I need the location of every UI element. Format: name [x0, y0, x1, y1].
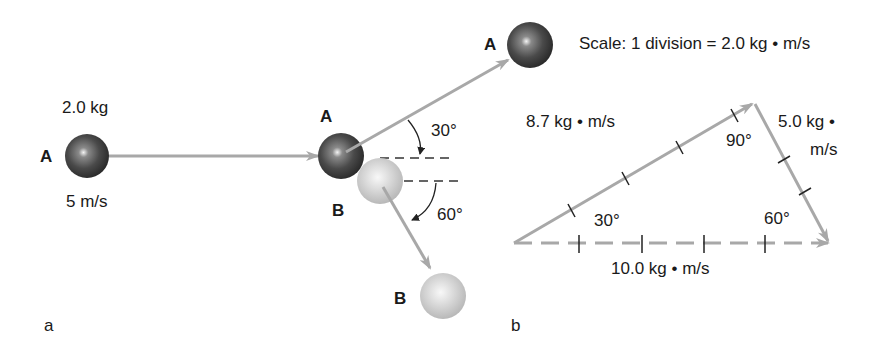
- angle-right-label: 60°: [764, 209, 790, 228]
- after-ball-b-label: B: [394, 289, 406, 308]
- resultant-label: 10.0 kg • m/s: [611, 259, 710, 278]
- panel-b: Scale: 1 division = 2.0 kg • m/s 8.7 kg …: [511, 34, 837, 335]
- collision-group: A B 30° 60°: [318, 60, 508, 268]
- angle-top-label: 90°: [726, 131, 752, 150]
- vector-a-label: 8.7 kg • m/s: [526, 112, 615, 131]
- angle-arc-30: [408, 120, 421, 154]
- ball-b-after: B: [394, 273, 466, 319]
- after-ball-b-icon: [420, 273, 466, 319]
- vector-b-label-line1: 5.0 kg •: [778, 112, 835, 131]
- angle-b-label: 60°: [437, 205, 463, 224]
- panel-a: 2.0 kg A 5 m/s A B 30° 6: [40, 22, 553, 335]
- collision-ball-b-label: B: [332, 201, 344, 220]
- vector-b-label-line2: m/s: [810, 140, 837, 159]
- outgoing-b-arrow: [383, 187, 430, 268]
- ball-a-label: A: [40, 147, 52, 166]
- collision-ball-b-icon: [357, 158, 403, 204]
- ball-a-icon: [65, 134, 109, 178]
- collision-ball-a-icon: [318, 133, 364, 179]
- panel-a-label: a: [44, 316, 54, 335]
- collision-ball-a-label: A: [320, 107, 332, 126]
- panel-b-label: b: [511, 316, 520, 335]
- after-ball-a-label: A: [484, 35, 496, 54]
- ball-a-before: 2.0 kg A 5 m/s: [40, 98, 109, 211]
- angle-arc-60: [412, 183, 436, 220]
- momentum-collision-diagram: 2.0 kg A 5 m/s A B 30° 6: [0, 0, 891, 356]
- speed-label: 5 m/s: [66, 192, 108, 211]
- ball-a-after: A: [484, 22, 553, 68]
- scale-label: Scale: 1 division = 2.0 kg • m/s: [579, 34, 810, 53]
- angle-a-label: 30°: [431, 121, 457, 140]
- mass-label: 2.0 kg: [62, 98, 108, 117]
- angle-left-label: 30°: [594, 211, 620, 230]
- after-ball-a-icon: [507, 22, 553, 68]
- outgoing-a-arrow: [346, 60, 508, 152]
